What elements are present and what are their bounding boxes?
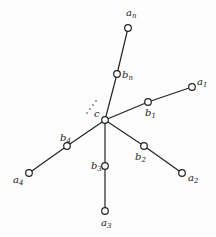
nodes: [26, 25, 196, 215]
node-a2: [179, 170, 186, 177]
tree-diagram: canbna1b1b2a2b3a3b4a4: [0, 0, 216, 237]
ellipsis-dot: [86, 112, 88, 114]
edge-c-b2: [105, 120, 144, 146]
node-b1: [145, 99, 152, 106]
label-b2: b2: [135, 151, 146, 164]
edge-b1-a1: [148, 87, 192, 102]
ellipsis-dot: [95, 100, 97, 102]
node-b2: [141, 143, 148, 150]
edge-c-b4: [67, 120, 105, 146]
ellipsis-dot: [92, 104, 94, 106]
ellipsis-dot: [89, 108, 91, 110]
label-a4: a4: [13, 174, 23, 187]
edge-c-bn: [105, 74, 117, 120]
node-a4: [26, 170, 33, 177]
label-b3: b3: [91, 160, 102, 173]
edge-b2-a2: [144, 146, 182, 173]
edges: [29, 28, 192, 211]
node-bn: [114, 71, 121, 78]
edge-c-b1: [105, 102, 148, 120]
edge-bn-an: [117, 28, 128, 74]
label-a2: a2: [188, 172, 199, 185]
node-c: [102, 117, 109, 124]
label-an: an: [126, 7, 137, 20]
node-a1: [189, 84, 196, 91]
label-bn: bn: [122, 69, 133, 82]
edge-b4-a4: [29, 146, 67, 173]
label-b4: b4: [60, 132, 71, 145]
diagram-svg: canbna1b1b2a2b3a3b4a4: [0, 0, 216, 237]
labels: canbna1b1b2a2b3a3b4a4: [13, 7, 207, 230]
label-a1: a1: [197, 76, 207, 89]
node-b3: [102, 163, 109, 170]
label-a3: a3: [101, 217, 112, 230]
label-c: c: [94, 108, 100, 119]
node-a3: [102, 208, 109, 215]
label-b1: b1: [145, 107, 156, 120]
node-an: [125, 25, 132, 32]
